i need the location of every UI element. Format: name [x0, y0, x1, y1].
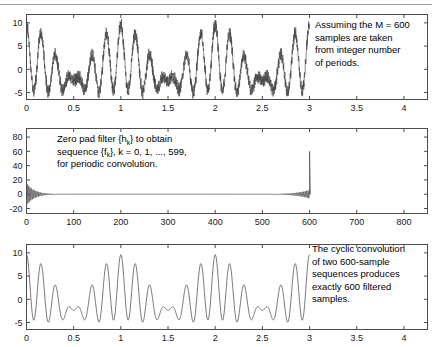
- svg-text:2.5: 2.5: [256, 333, 269, 343]
- svg-text:3.5: 3.5: [350, 103, 363, 113]
- svg-text:of periods.: of periods.: [315, 57, 359, 68]
- svg-text:200: 200: [113, 217, 128, 227]
- svg-text:exactly 600 filtered: exactly 600 filtered: [312, 281, 391, 292]
- svg-text:20: 20: [12, 175, 22, 185]
- panel-zero-padded-filter: 0100200300400500600700800-20020406080Zer…: [0, 120, 432, 228]
- svg-text:300: 300: [161, 217, 176, 227]
- svg-text:600: 600: [302, 217, 317, 227]
- svg-text:4: 4: [401, 103, 406, 113]
- svg-text:500: 500: [255, 217, 270, 227]
- svg-text:700: 700: [349, 217, 364, 227]
- svg-text:sequences produces: sequences produces: [312, 268, 400, 279]
- panel-top-svg: 00.511.522.533.54-50510Assuming the M = …: [0, 6, 432, 114]
- svg-text:5: 5: [17, 271, 22, 281]
- panel-noisy-signal: 00.511.522.533.54-50510Assuming the M = …: [0, 6, 432, 114]
- svg-text:40: 40: [12, 161, 22, 171]
- svg-text:-5: -5: [14, 88, 22, 98]
- svg-text:0: 0: [24, 217, 29, 227]
- svg-text:3: 3: [307, 103, 312, 113]
- svg-text:of two 600-sample: of two 600-sample: [312, 256, 390, 267]
- svg-text:800: 800: [396, 217, 411, 227]
- svg-text:5: 5: [17, 41, 22, 51]
- svg-text:10: 10: [12, 248, 22, 258]
- svg-text:1.5: 1.5: [162, 103, 175, 113]
- svg-text:400: 400: [208, 217, 223, 227]
- signal-processing-figure: 00.511.522.533.54-50510Assuming the M = …: [0, 0, 432, 347]
- svg-text:2: 2: [213, 103, 218, 113]
- svg-text:Assuming the M = 600: Assuming the M = 600: [315, 19, 410, 30]
- svg-text:samples.: samples.: [312, 293, 350, 304]
- svg-text:0: 0: [24, 333, 29, 343]
- svg-text:2: 2: [213, 333, 218, 343]
- svg-text:0: 0: [24, 103, 29, 113]
- svg-text:-5: -5: [14, 318, 22, 328]
- svg-text:4: 4: [401, 333, 406, 343]
- svg-text:3.5: 3.5: [350, 333, 363, 343]
- svg-text:3: 3: [307, 333, 312, 343]
- svg-text:1: 1: [118, 333, 123, 343]
- svg-text:60: 60: [12, 147, 22, 157]
- panel-mid-svg: 0100200300400500600700800-20020406080Zer…: [0, 120, 432, 228]
- svg-text:0.5: 0.5: [67, 333, 80, 343]
- svg-text:10: 10: [12, 18, 22, 28]
- figure-top-rule: [0, 4, 432, 5]
- svg-text:0.5: 0.5: [67, 103, 80, 113]
- svg-text:1: 1: [118, 103, 123, 113]
- panel-bot-svg: 00.511.522.533.54-50510The cyclic convol…: [0, 236, 432, 344]
- svg-text:0: 0: [17, 295, 22, 305]
- svg-text:The cyclic convolution: The cyclic convolution: [312, 243, 405, 254]
- svg-text:-20: -20: [9, 204, 22, 214]
- svg-text:sequence {fk}, k = 0, 1, ...,: sequence {fk}, k = 0, 1, ..., 599,: [57, 146, 187, 159]
- svg-text:2.5: 2.5: [256, 103, 269, 113]
- svg-text:0: 0: [17, 189, 22, 199]
- svg-text:1.5: 1.5: [162, 333, 175, 343]
- svg-text:0: 0: [17, 65, 22, 75]
- svg-text:80: 80: [12, 132, 22, 142]
- svg-text:for periodic convolution.: for periodic convolution.: [57, 158, 157, 169]
- panel-filtered-output: 00.511.522.533.54-50510The cyclic convol…: [0, 236, 432, 344]
- svg-text:Zero pad filter {hk} to obtai: Zero pad filter {hk} to obtain: [57, 133, 172, 146]
- svg-text:from integer number: from integer number: [315, 44, 401, 55]
- svg-text:100: 100: [66, 217, 81, 227]
- svg-text:samples are taken: samples are taken: [315, 32, 393, 43]
